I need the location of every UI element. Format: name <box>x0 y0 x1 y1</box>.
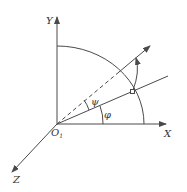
origin-label: O1 <box>51 127 63 139</box>
intersection-marker <box>131 90 135 94</box>
z-axis-label: Z <box>12 174 21 185</box>
origin-letter: O <box>51 127 59 138</box>
phi-line <box>57 76 168 124</box>
quarter-arc <box>57 46 144 124</box>
phi-angle-arc <box>100 106 103 124</box>
rotation-arrow <box>133 58 137 90</box>
psi-angle-arc <box>84 100 89 110</box>
origin-subscript: 1 <box>59 132 63 139</box>
psi-label: ψ <box>91 96 99 107</box>
psi-line-solid <box>119 46 150 72</box>
phi-label: φ <box>104 109 111 120</box>
y-axis-label: Y <box>46 15 54 26</box>
x-axis-label: X <box>163 128 172 139</box>
coordinate-diagram: Y X Z O1 φ ψ <box>0 0 187 192</box>
